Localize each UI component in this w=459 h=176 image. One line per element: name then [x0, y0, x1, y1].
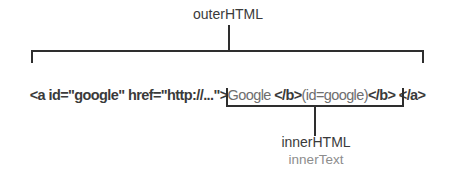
dom-properties-diagram: outerHTML <a id="google" href="http://..… [0, 0, 459, 176]
innerhtml-connector-line [314, 106, 316, 136]
innertext-label: innerText [246, 151, 386, 168]
outerhtml-brace [31, 50, 424, 63]
innerhtml-label: innerHTML [246, 134, 386, 151]
innerhtml-brace [226, 88, 404, 107]
anchor-open-tag: <a id="google" href="http://..."> [30, 87, 228, 103]
outerhtml-connector-line [228, 25, 230, 50]
outerhtml-label: outerHTML [158, 6, 298, 23]
